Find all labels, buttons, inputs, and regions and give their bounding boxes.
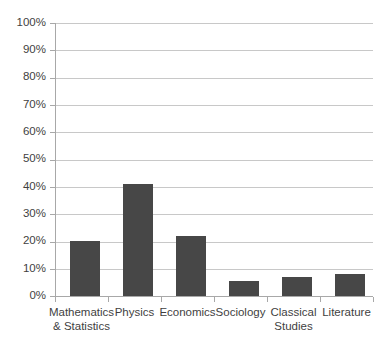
y-tick-label-60: 60%	[2, 126, 46, 138]
gridline-40	[55, 187, 373, 188]
x-category-label-literature: Literature	[312, 306, 381, 320]
x-tick-mark-5	[320, 297, 321, 302]
y-tick-label-90: 90%	[2, 44, 46, 56]
bar-economics	[176, 236, 206, 296]
gridline-90	[55, 50, 373, 51]
y-tick-label-50: 50%	[2, 153, 46, 165]
plot-area	[55, 23, 373, 296]
y-axis-line	[55, 23, 56, 297]
gridline-100	[55, 23, 373, 24]
gridline-10	[55, 269, 373, 270]
gridline-80	[55, 78, 373, 79]
bar-sociology	[229, 281, 259, 296]
x-tick-mark-3	[214, 297, 215, 302]
y-tick-label-40: 40%	[2, 181, 46, 193]
x-tick-mark-6	[373, 297, 374, 302]
y-axis-labels: 100% 90% 80% 70% 60% 50% 40% 30% 20% 10%…	[2, 0, 46, 352]
x-tick-mark-4	[267, 297, 268, 302]
bar-mathematics-statistics	[70, 241, 100, 296]
bar-literature	[335, 274, 365, 296]
x-tick-mark-1	[108, 297, 109, 302]
y-tick-label-10: 10%	[2, 263, 46, 275]
x-tick-mark-0	[55, 297, 56, 302]
bar-chart: 100% 90% 80% 70% 60% 50% 40% 30% 20% 10%…	[0, 0, 391, 352]
gridline-50	[55, 160, 373, 161]
y-tick-label-0: 0%	[2, 290, 46, 302]
gridline-60	[55, 132, 373, 133]
bar-classical-studies	[282, 277, 312, 296]
y-tick-label-70: 70%	[2, 99, 46, 111]
bar-physics	[123, 184, 153, 296]
gridline-20	[55, 242, 373, 243]
y-tick-label-100: 100%	[2, 17, 46, 29]
y-tick-label-30: 30%	[2, 208, 46, 220]
gridline-70	[55, 105, 373, 106]
y-tick-label-80: 80%	[2, 71, 46, 83]
gridline-30	[55, 214, 373, 215]
x-tick-mark-2	[161, 297, 162, 302]
y-tick-label-20: 20%	[2, 235, 46, 247]
